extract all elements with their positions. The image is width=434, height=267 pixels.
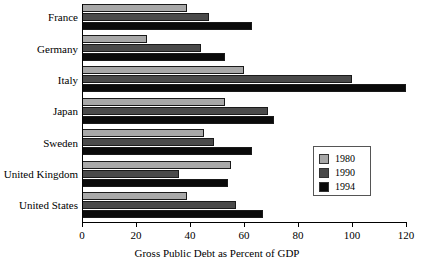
legend-label-1980: 1980 — [335, 154, 355, 164]
x-tick-120 — [406, 222, 407, 227]
x-tick-40 — [190, 222, 191, 227]
category-label-united-states: United States — [0, 200, 78, 211]
bar-sweden-1994 — [82, 147, 252, 155]
legend-swatch-1994-icon — [319, 182, 329, 192]
bar-group-united-states — [82, 192, 406, 220]
legend-label-1990: 1990 — [335, 168, 355, 178]
x-tick-label-20: 20 — [131, 229, 142, 241]
bar-united-states-1990 — [82, 201, 236, 209]
y-axis-line — [82, 4, 83, 223]
bar-japan-1994 — [82, 116, 274, 124]
x-tick-label-0: 0 — [79, 229, 85, 241]
x-tick-label-40: 40 — [185, 229, 196, 241]
category-label-japan: Japan — [0, 106, 78, 117]
legend-swatch-1980-icon — [319, 154, 329, 164]
bar-united-kingdom-1990 — [82, 170, 179, 178]
x-tick-20 — [136, 222, 137, 227]
x-tick-60 — [244, 222, 245, 227]
x-tick-label-120: 120 — [398, 229, 415, 241]
bar-italy-1994 — [82, 84, 406, 92]
bar-sweden-1990 — [82, 138, 214, 146]
category-label-germany: Germany — [0, 44, 78, 55]
bar-germany-1994 — [82, 53, 225, 61]
x-tick-label-100: 100 — [344, 229, 361, 241]
bar-germany-1980 — [82, 35, 147, 43]
bar-chart: France Germany Italy Japan Sweden United… — [0, 0, 434, 267]
x-tick-label-60: 60 — [239, 229, 250, 241]
bar-united-states-1980 — [82, 192, 187, 200]
x-axis-title: Gross Public Debt as Percent of GDP — [0, 247, 434, 259]
bar-japan-1990 — [82, 107, 268, 115]
bar-group-japan — [82, 98, 406, 126]
bar-united-kingdom-1980 — [82, 161, 231, 169]
bar-sweden-1980 — [82, 129, 204, 137]
x-tick-label-80: 80 — [293, 229, 304, 241]
category-axis-labels: France Germany Italy Japan Sweden United… — [0, 4, 78, 218]
x-tick-100 — [352, 222, 353, 227]
bar-italy-1980 — [82, 66, 244, 74]
legend-item-1990: 1990 — [319, 167, 355, 179]
bar-france-1990 — [82, 13, 209, 21]
bar-japan-1980 — [82, 98, 225, 106]
legend: 1980 1990 1994 — [313, 146, 371, 196]
bar-france-1994 — [82, 22, 252, 30]
bar-italy-1990 — [82, 75, 352, 83]
category-label-sweden: Sweden — [0, 138, 78, 149]
bar-france-1980 — [82, 4, 187, 12]
x-tick-0 — [82, 222, 83, 227]
bar-united-states-1994 — [82, 210, 263, 218]
bar-group-italy — [82, 66, 406, 94]
bar-group-france — [82, 4, 406, 32]
bar-group-germany — [82, 35, 406, 63]
category-label-united-kingdom: United Kingdom — [0, 169, 78, 180]
legend-swatch-1990-icon — [319, 168, 329, 178]
legend-item-1980: 1980 — [319, 153, 355, 165]
legend-label-1994: 1994 — [335, 182, 355, 192]
category-label-france: France — [0, 12, 78, 23]
legend-item-1994: 1994 — [319, 181, 355, 193]
category-label-italy: Italy — [0, 75, 78, 86]
bar-germany-1990 — [82, 44, 201, 52]
bar-united-kingdom-1994 — [82, 179, 228, 187]
x-tick-80 — [298, 222, 299, 227]
